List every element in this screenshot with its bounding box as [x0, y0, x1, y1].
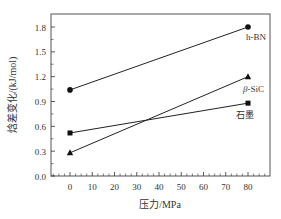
series-line	[70, 27, 248, 90]
x-tick-label: 80	[244, 182, 254, 192]
series-label-graphite: 石墨	[236, 110, 254, 120]
marker-square-icon	[246, 101, 251, 106]
y-tick-label: 0.6	[35, 122, 47, 132]
series-label-sic: β-SiC	[242, 84, 264, 94]
x-tick-label: 0	[68, 182, 73, 192]
y-tick-label: 1.5	[35, 47, 47, 57]
marker-circle-icon	[67, 87, 73, 93]
x-tick-label: 40	[155, 182, 165, 192]
plot-frame	[51, 14, 270, 176]
marker-circle-icon	[245, 24, 251, 30]
x-tick-label: 60	[199, 182, 209, 192]
y-tick-label: 1.8	[35, 23, 47, 33]
chart: 0.00.30.60.91.21.51.8 01020304050607080 …	[0, 0, 281, 219]
x-axis-label: 压力/MPa	[139, 198, 181, 210]
y-axis-ticks: 0.00.30.60.91.21.51.8	[35, 23, 55, 182]
y-tick-label: 1.2	[35, 72, 46, 82]
x-tick-label: 20	[110, 182, 120, 192]
x-tick-label: 50	[177, 182, 187, 192]
series-group	[67, 24, 251, 155]
marker-triangle-icon	[245, 73, 251, 79]
x-tick-label: 10	[88, 182, 98, 192]
marker-square-icon	[68, 130, 73, 135]
x-axis-ticks: 01020304050607080	[53, 172, 264, 192]
series-line	[70, 103, 248, 133]
y-tick-label: 0.0	[35, 172, 47, 182]
series-line	[70, 77, 248, 153]
plot-border	[51, 14, 270, 176]
y-tick-label: 0.3	[35, 147, 47, 157]
x-tick-label: 70	[221, 182, 231, 192]
series-label-hbn: h-BN	[246, 32, 267, 42]
y-tick-label: 0.9	[35, 97, 47, 107]
x-tick-label: 30	[132, 182, 142, 192]
y-axis-label: 焓差变化/(kJ/mol)	[6, 57, 19, 134]
